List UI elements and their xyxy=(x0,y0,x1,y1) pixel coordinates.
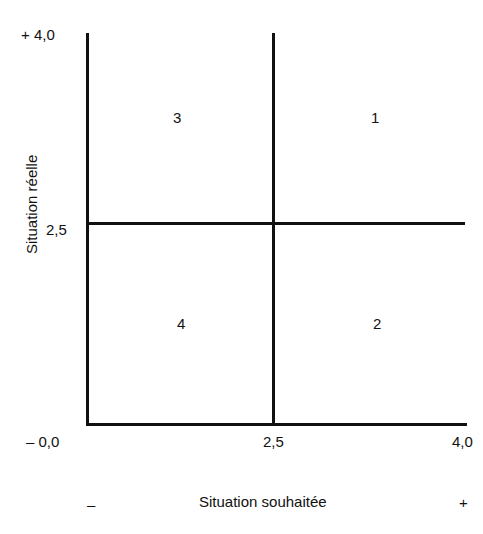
vertical-divider-line xyxy=(272,33,275,425)
quadrant-label-4: 4 xyxy=(177,316,185,331)
quadrant-label-2: 2 xyxy=(373,316,381,331)
quadrant-label-1: 1 xyxy=(371,110,379,125)
y-tick-mid: 2,5 xyxy=(46,222,67,237)
y-axis-line xyxy=(86,33,89,426)
x-axis-line xyxy=(86,423,467,426)
x-min-sign: – xyxy=(87,497,95,512)
x-max-sign: + xyxy=(459,495,468,510)
y-tick-min: – 0,0 xyxy=(26,434,59,449)
quadrant-label-3: 3 xyxy=(173,110,181,125)
x-tick-max: 4,0 xyxy=(452,434,473,449)
horizontal-divider-line xyxy=(87,222,465,225)
y-axis-label: Situation réelle xyxy=(24,155,39,254)
x-tick-mid: 2,5 xyxy=(263,434,284,449)
y-tick-max: + 4,0 xyxy=(21,27,55,42)
x-axis-label: Situation souhaitée xyxy=(199,494,327,509)
